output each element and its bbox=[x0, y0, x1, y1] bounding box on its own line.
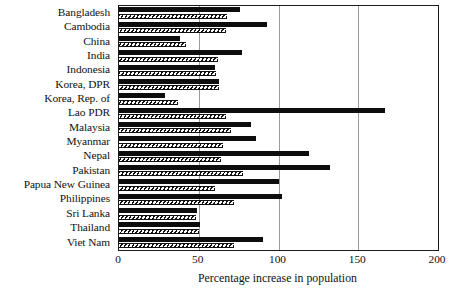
category-label: Korea, DPR bbox=[0, 77, 114, 91]
bar-group bbox=[119, 135, 438, 149]
bar-solid bbox=[119, 36, 180, 41]
category-label: Korea, Rep. of bbox=[0, 91, 114, 105]
bar-group bbox=[119, 207, 438, 221]
category-label: Malaysia bbox=[0, 120, 114, 134]
category-label: Indonesia bbox=[0, 62, 114, 76]
bar-group bbox=[119, 35, 438, 49]
category-label: Papua New Guinea bbox=[0, 177, 114, 191]
bar-solid bbox=[119, 136, 256, 141]
x-tick-label: 0 bbox=[115, 252, 121, 266]
category-label: Nepal bbox=[0, 148, 114, 162]
bar-solid bbox=[119, 65, 215, 70]
category-label: Viet Nam bbox=[0, 235, 114, 249]
category-label: Philippines bbox=[0, 191, 114, 205]
category-label: Thailand bbox=[0, 220, 114, 234]
x-tick-label: 150 bbox=[349, 252, 366, 266]
bar-group bbox=[119, 106, 438, 120]
bar-hatched bbox=[119, 85, 219, 90]
bar-hatched bbox=[119, 28, 226, 33]
bar-hatched bbox=[119, 229, 199, 234]
bar-hatched bbox=[119, 128, 231, 133]
x-axis-tick-labels: 050100150200 bbox=[0, 252, 452, 268]
bar-hatched bbox=[119, 143, 223, 148]
bar-group bbox=[119, 49, 438, 63]
bar-group bbox=[119, 78, 438, 92]
plot-inner bbox=[119, 6, 438, 250]
bar-group bbox=[119, 150, 438, 164]
bar-group bbox=[119, 236, 438, 250]
bar-group bbox=[119, 6, 438, 20]
x-tick-label: 200 bbox=[428, 252, 445, 266]
bar-solid bbox=[119, 50, 242, 55]
bar-hatched bbox=[119, 200, 234, 205]
bar-hatched bbox=[119, 71, 216, 76]
category-label: India bbox=[0, 48, 114, 62]
population-increase-bar-chart: BangladeshCambodiaChinaIndiaIndonesiaKor… bbox=[0, 0, 452, 298]
bar-solid bbox=[119, 222, 200, 227]
x-tick-label: 100 bbox=[269, 252, 286, 266]
bar-solid bbox=[119, 194, 282, 199]
bar-hatched bbox=[119, 171, 243, 176]
bar-hatched bbox=[119, 100, 178, 105]
category-label: China bbox=[0, 34, 114, 48]
category-label: Myanmar bbox=[0, 134, 114, 148]
category-label: Cambodia bbox=[0, 19, 114, 33]
bar-hatched bbox=[119, 157, 221, 162]
x-axis-title: Percentage increase in population bbox=[118, 271, 437, 286]
bar-group bbox=[119, 178, 438, 192]
bar-hatched bbox=[119, 243, 234, 248]
plot-area bbox=[118, 5, 439, 251]
bar-solid bbox=[119, 7, 240, 12]
bar-solid bbox=[119, 108, 385, 113]
category-label: Bangladesh bbox=[0, 5, 114, 19]
bar-solid bbox=[119, 122, 251, 127]
bar-solid bbox=[119, 79, 219, 84]
bar-group bbox=[119, 20, 438, 34]
category-label: Pakistan bbox=[0, 163, 114, 177]
category-label-column: BangladeshCambodiaChinaIndiaIndonesiaKor… bbox=[0, 5, 114, 249]
bar-group bbox=[119, 221, 438, 235]
bar-hatched bbox=[119, 215, 196, 220]
bar-group bbox=[119, 193, 438, 207]
bar-solid bbox=[119, 93, 165, 98]
bar-solid bbox=[119, 22, 267, 27]
bar-solid bbox=[119, 237, 263, 242]
bar-hatched bbox=[119, 114, 226, 119]
bar-hatched bbox=[119, 186, 215, 191]
bar-hatched bbox=[119, 42, 186, 47]
bar-hatched bbox=[119, 57, 218, 62]
bar-group bbox=[119, 121, 438, 135]
category-label: Lao PDR bbox=[0, 105, 114, 119]
bar-solid bbox=[119, 179, 279, 184]
x-tick-label: 50 bbox=[192, 252, 203, 266]
bar-group bbox=[119, 92, 438, 106]
bar-group bbox=[119, 164, 438, 178]
bar-solid bbox=[119, 151, 309, 156]
bar-hatched bbox=[119, 14, 227, 19]
bar-solid bbox=[119, 208, 197, 213]
bar-group bbox=[119, 63, 438, 77]
bar-solid bbox=[119, 165, 330, 170]
category-label: Sri Lanka bbox=[0, 206, 114, 220]
